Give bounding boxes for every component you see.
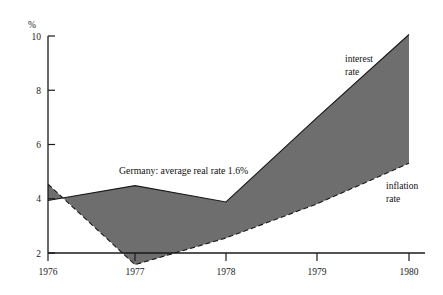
x-tick-label-1979: 1979 [308,267,327,277]
y-tick-label-6: 6 [36,140,41,150]
series-label-interest-rate-line1: interest [345,54,373,64]
annotation-average-real-rate: Germany: average real rate 1.6% [119,165,248,176]
chart-container: % 10 8 6 4 2 1976 1977 1978 1979 1980 Ge… [0,0,443,295]
y-axis-unit-label: % [28,20,36,30]
x-tick-label-1978: 1978 [217,267,236,277]
series-label-interest-rate-line2: rate [345,67,359,77]
series-label-inflation-rate-line2: rate [386,194,400,204]
x-tick-label-1976: 1976 [39,267,58,277]
x-tick-label-1977: 1977 [126,267,145,277]
y-tick-label-8: 8 [36,86,41,96]
y-tick-label-4: 4 [36,194,41,204]
y-tick-label-2: 2 [36,249,41,259]
x-tick-label-1980: 1980 [400,267,419,277]
series-label-inflation-rate-line1: inflation [386,181,418,191]
chart-svg: % 10 8 6 4 2 1976 1977 1978 1979 1980 Ge… [0,0,443,295]
y-tick-label-10: 10 [32,32,42,42]
